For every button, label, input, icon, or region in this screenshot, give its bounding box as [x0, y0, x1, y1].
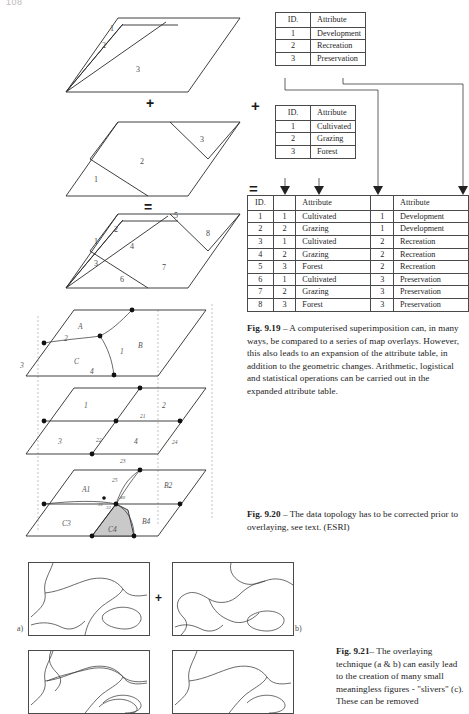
table-connector-arrows [247, 78, 469, 196]
fig920-area-B2: B2 [164, 481, 173, 490]
cell-id: 1 [248, 210, 274, 223]
cell-attribute: Preservation [311, 52, 366, 65]
fig919-r-label-1: 1 [94, 237, 98, 246]
fig920-area-4: 4 [134, 437, 138, 446]
cell-id3: 1 [371, 223, 394, 236]
caption-label: Fig. 9.19 [247, 323, 281, 333]
fig920-area-3: 3 [57, 437, 62, 446]
fig919-operator-plus: + [146, 95, 154, 111]
fig-920-diagram: A B C 1 2 3 4 1 2 3 4 21 22 23 2 [16, 296, 242, 546]
cell-attr2: Preservation [394, 286, 469, 299]
fig-921-panel-c [28, 650, 150, 714]
node-dot [130, 308, 135, 313]
page-number: 108 [6, 0, 23, 7]
fig920-area-A1: A1 [81, 485, 90, 494]
node-dot [90, 452, 95, 457]
fig-921-plus-operator: + [155, 592, 162, 604]
attribute-table-combined: ID. Attribute Attribute 1 1 Cultivated 1… [247, 195, 469, 312]
th-id: ID. [248, 196, 274, 211]
cell-id: 7 [248, 286, 274, 299]
cell-id: 2 [276, 40, 311, 53]
fig920-edge-3: 3 [19, 361, 24, 370]
th-attribute-1: Attribute [296, 196, 371, 211]
node-dot [114, 502, 119, 507]
cell-attr1: Cultivated [296, 235, 371, 248]
table-row: 8 3 Forest 3 Preservation [248, 299, 469, 312]
cell-id2: 2 [273, 248, 296, 261]
table-header-row: ID. Attribute Attribute [248, 196, 469, 211]
caption-label: Fig. 9.21 [336, 646, 370, 656]
fig920-edge-22: 22 [96, 437, 102, 443]
fig919-r-label-5: 5 [174, 211, 178, 220]
node-dot [42, 419, 47, 424]
cell-attr1: Grazing [296, 223, 371, 236]
fig919-layer-result [66, 214, 240, 288]
cell-id: 3 [276, 52, 311, 65]
cell-attr2: Recreation [394, 248, 469, 261]
node-dot [102, 496, 106, 500]
fig920-area-C: C [74, 357, 80, 366]
cell-attr1: Forest [296, 261, 371, 274]
cell-id2: 3 [273, 299, 296, 312]
cell-id: 8 [248, 299, 274, 312]
fig920-edge-2: 2 [64, 334, 68, 343]
fig919-r-label-2: 2 [114, 225, 118, 234]
cell-attr1: Grazing [296, 286, 371, 299]
fig920-area-B4: B4 [142, 517, 151, 526]
cell-attr1: Cultivated [296, 273, 371, 286]
fig920-edge-32: 32 [106, 505, 112, 510]
cell-id3: 2 [371, 261, 394, 274]
cell-attr1: Forest [296, 299, 371, 312]
fig-921-panel-d [172, 650, 294, 714]
th-id: ID. [276, 13, 311, 28]
cell-id: 6 [248, 273, 274, 286]
attribute-table-top: ID. Attribute 1 Development 2 Recreation… [275, 12, 366, 66]
table-row: 1 Development [276, 27, 366, 40]
node-dot [114, 419, 119, 424]
table-row: 7 2 Grazing 3 Preservation [248, 286, 469, 299]
table-row: 3 1 Cultivated 2 Recreation [248, 235, 469, 248]
cell-id3: 2 [371, 235, 394, 248]
cell-id: 5 [248, 261, 274, 274]
fig919-r-label-8: 8 [206, 229, 210, 238]
caption-dash: – [283, 323, 288, 333]
node-dot [42, 502, 47, 507]
cell-id2: 2 [273, 223, 296, 236]
table-row: 2 2 Grazing 1 Development [248, 223, 469, 236]
fig919-l1-label-3: 3 [136, 65, 140, 74]
fig920-edge-31: 31 [98, 502, 103, 507]
cell-id2: 1 [273, 235, 296, 248]
cell-attr2: Recreation [394, 261, 469, 274]
th-blank-2 [371, 196, 394, 211]
node-dot [138, 468, 143, 473]
fig920-area-B: B [138, 341, 143, 350]
node-dot [178, 419, 183, 424]
node-dot [90, 534, 95, 539]
cell-id3: 3 [371, 286, 394, 299]
figure-921-caption: Fig. 9.21– The overlaying technique (a &… [336, 645, 464, 708]
cell-id2: 3 [273, 261, 296, 274]
fig920-edge-1: 1 [120, 347, 124, 356]
caption-text: A computerised superimposition can, in m… [247, 323, 459, 396]
fig919-l2-label-2: 2 [140, 157, 144, 166]
cell-attribute: Development [311, 27, 366, 40]
cell-id: 3 [248, 235, 274, 248]
th-blank-1 [273, 196, 296, 211]
fig920-area-C3: C3 [62, 519, 71, 528]
node-dot [98, 334, 103, 339]
cell-id: 1 [276, 27, 311, 40]
figure-920-caption: Fig. 9.20 – The data topology has to be … [247, 508, 463, 533]
fig-921-label-b: b) [295, 624, 302, 633]
fig-919-diagram: 1 2 3 + 1 2 3 = [58, 4, 248, 294]
combined-table-body: 1 1 Cultivated 1 Development 2 2 Grazing… [248, 210, 469, 311]
cell-attr1: Grazing [296, 248, 371, 261]
fig920-edge-24: 24 [172, 439, 178, 445]
fig-921-panel-b [172, 562, 294, 636]
fig-921-panel-a [28, 562, 150, 636]
cell-attr2: Recreation [394, 235, 469, 248]
fig919-r-label-4: 4 [130, 242, 134, 251]
table-row: 3 Preservation [276, 52, 366, 65]
cell-id: 2 [248, 223, 274, 236]
caption-dash: – [283, 509, 288, 519]
cell-id2: 1 [273, 210, 296, 223]
